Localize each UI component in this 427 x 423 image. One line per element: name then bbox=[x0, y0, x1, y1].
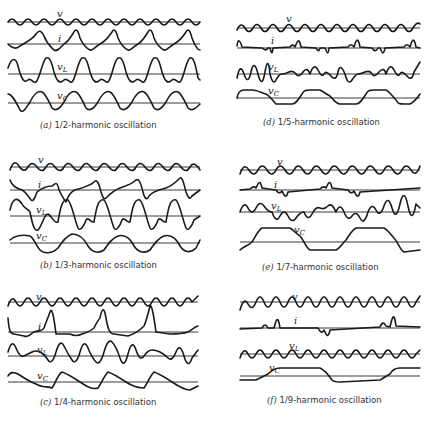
label-vL: vL bbox=[271, 201, 281, 214]
label-v: v bbox=[277, 157, 283, 167]
caption-b: (b) 1/3-harmonic oscillation bbox=[40, 260, 157, 270]
label-vL: vL bbox=[289, 341, 299, 354]
trace-vC bbox=[10, 234, 200, 253]
label-vL: vL bbox=[268, 62, 278, 75]
trace-vL bbox=[240, 195, 420, 220]
trace-vL bbox=[10, 199, 200, 230]
label-vC: vC bbox=[268, 86, 279, 99]
trace-i bbox=[237, 40, 420, 53]
label-i: i bbox=[38, 180, 41, 190]
caption-f: (f) 1/9-harmonic oscillation bbox=[267, 395, 382, 405]
label-vL: vL bbox=[36, 205, 46, 218]
label-vC: vC bbox=[294, 225, 305, 238]
trace-v bbox=[8, 296, 198, 306]
label-i: i bbox=[294, 316, 297, 326]
label-vC: vC bbox=[269, 363, 280, 376]
label-vL: vL bbox=[57, 62, 67, 75]
label-v: v bbox=[38, 155, 44, 165]
label-vC: vC bbox=[57, 91, 68, 104]
label-v: v bbox=[286, 14, 292, 24]
label-i: i bbox=[271, 36, 274, 46]
caption-e: (e) 1/7-harmonic oscillation bbox=[262, 262, 379, 272]
label-i: i bbox=[58, 34, 61, 44]
label-i: i bbox=[38, 322, 41, 332]
label-v: v bbox=[36, 292, 42, 302]
trace-v bbox=[240, 296, 420, 310]
caption-d: (d) 1/5-harmonic oscillation bbox=[263, 117, 380, 127]
label-vL: vL bbox=[37, 345, 47, 358]
trace-v bbox=[10, 163, 200, 171]
trace-i bbox=[240, 317, 420, 336]
trace-v bbox=[240, 166, 420, 174]
trace-i bbox=[8, 306, 198, 337]
caption-c: (c) 1/4-harmonic oscillation bbox=[40, 397, 156, 407]
waveform-plot-a bbox=[0, 0, 213, 140]
trace-vC bbox=[237, 90, 420, 104]
trace-vL bbox=[8, 341, 198, 363]
label-vC: vC bbox=[36, 231, 47, 244]
label-vC: vC bbox=[37, 371, 48, 384]
label-i: i bbox=[274, 180, 277, 190]
caption-a: (a) 1/2-harmonic oscillation bbox=[40, 120, 157, 130]
trace-vL bbox=[8, 58, 200, 83]
trace-i bbox=[240, 183, 420, 197]
trace-vC bbox=[240, 368, 420, 382]
label-v: v bbox=[292, 292, 298, 302]
trace-v bbox=[237, 23, 420, 31]
trace-vC bbox=[8, 91, 200, 111]
trace-i bbox=[10, 178, 200, 202]
trace-vL bbox=[240, 350, 420, 358]
trace-vC bbox=[8, 372, 198, 390]
trace-vL bbox=[237, 62, 420, 82]
trace-i bbox=[8, 30, 200, 51]
trace-vC bbox=[240, 228, 420, 252]
panel-a-half-harmonic: v i vL vC (a) 1/2-harmonic oscillation bbox=[0, 0, 213, 140]
label-v: v bbox=[57, 9, 63, 19]
